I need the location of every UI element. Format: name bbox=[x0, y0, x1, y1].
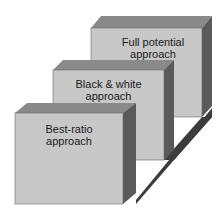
label-black-white: Black & white approach bbox=[53, 78, 164, 102]
label-best-ratio: Best-ratio approach bbox=[15, 123, 123, 147]
block-best-ratio bbox=[15, 103, 136, 204]
blocks-diagram bbox=[0, 0, 223, 221]
label-full-potential: Full potential approach bbox=[104, 36, 202, 60]
